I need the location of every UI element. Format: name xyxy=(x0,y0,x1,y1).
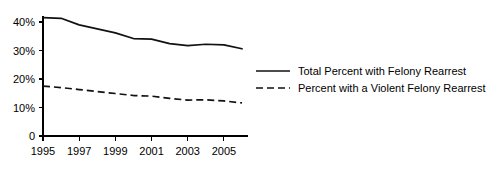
legend-item-total-felony-rearrest: Total Percent with Felony Rearrest xyxy=(256,62,484,79)
x-tick-label: 1995 xyxy=(31,145,55,157)
y-axis-tick-labels: 010%20%30%40% xyxy=(13,16,35,142)
series-line-violent-felony-rearrest xyxy=(43,86,242,103)
x-tick-label: 2001 xyxy=(139,145,163,157)
x-tick-label: 1997 xyxy=(67,145,91,157)
chart-legend: Total Percent with Felony Rearrest Perce… xyxy=(256,62,484,96)
x-tick-label: 2005 xyxy=(212,145,236,157)
chart-canvas: 010%20%30%40% 199519971999200120032005 xyxy=(0,0,250,170)
x-tick-label: 2003 xyxy=(175,145,199,157)
x-tick-label: 1999 xyxy=(103,145,127,157)
y-tick-label: 10% xyxy=(13,102,35,114)
series-line-total-felony-rearrest xyxy=(43,18,242,49)
y-tick-label: 0 xyxy=(29,130,35,142)
y-axis-tick-marks xyxy=(39,22,43,136)
line-chart: 010%20%30%40% 199519971999200120032005 xyxy=(0,0,250,170)
x-axis-tick-marks xyxy=(43,136,224,141)
chart-page: 010%20%30%40% 199519971999200120032005 T… xyxy=(0,0,486,170)
legend-item-violent-felony-rearrest: Percent with a Violent Felony Rearrest xyxy=(256,79,484,96)
legend-label-total-felony-rearrest: Total Percent with Felony Rearrest xyxy=(298,65,466,77)
legend-label-violent-felony-rearrest: Percent with a Violent Felony Rearrest xyxy=(298,82,486,94)
y-tick-label: 30% xyxy=(13,45,35,57)
legend-solid-line-icon xyxy=(256,65,290,77)
x-axis-tick-labels: 199519971999200120032005 xyxy=(31,145,236,157)
legend-dashed-line-icon xyxy=(256,82,290,94)
y-tick-label: 40% xyxy=(13,16,35,28)
y-tick-label: 20% xyxy=(13,73,35,85)
